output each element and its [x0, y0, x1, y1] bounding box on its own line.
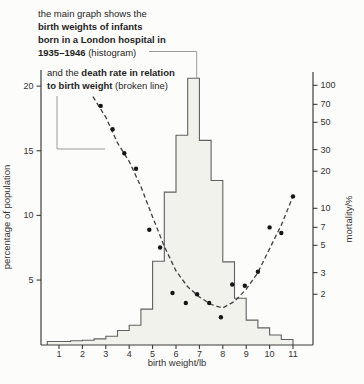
annotation-line-bold: birth weights of infants: [38, 21, 143, 32]
x-tick-label: 9: [244, 349, 249, 359]
right-tick-label: 30: [321, 145, 331, 155]
mortality-data-point: [279, 231, 283, 235]
annotation-line: the main graph shows the: [38, 8, 147, 19]
mortality-data-point: [158, 245, 162, 249]
mortality-data-point: [267, 225, 271, 229]
mortality-data-point: [195, 292, 199, 296]
annotation-line-bold: born in a London hospital in: [38, 34, 166, 45]
mortality-data-point: [230, 282, 234, 286]
annotation-years: 1935–1946: [38, 47, 86, 58]
mortality-data-point: [122, 151, 126, 155]
mortality-data-point: [243, 284, 247, 288]
mortality-data-point: [256, 270, 260, 274]
mortality-data-point: [147, 228, 151, 232]
right-tick-label: 10: [321, 203, 331, 213]
right-tick-label: 100: [321, 80, 336, 90]
histogram-outline: [47, 78, 293, 345]
annotation-line: and the: [47, 67, 81, 78]
left-tick-label: 5: [28, 275, 33, 285]
y-left-axis-title: percentage of population: [1, 165, 12, 270]
annotation-histogram-note: the main graph shows the birth weights o…: [38, 7, 223, 59]
x-tick-label: 11: [288, 349, 297, 359]
mortality-data-point: [110, 127, 114, 131]
right-tick-label: 3: [321, 268, 326, 278]
right-tick-label: 2: [321, 289, 326, 299]
annotation-line-bold: to birth weight: [47, 80, 112, 91]
right-tick-label: 70: [321, 99, 331, 109]
left-tick-label: 15: [23, 146, 33, 156]
mortality-data-point: [170, 291, 174, 295]
annotation-mortality-note: and the death rate in relation to birth …: [47, 66, 237, 92]
left-tick-label: 10: [23, 210, 33, 220]
mortality-data-point: [207, 301, 211, 305]
left-tick-label: 20: [23, 81, 33, 91]
right-tick-label: 7: [321, 222, 326, 232]
x-tick-label: 8: [220, 349, 225, 359]
right-tick-label: 5: [321, 240, 326, 250]
x-tick-label: 2: [80, 349, 85, 359]
annotation-line-bold: death rate in relation: [81, 67, 174, 78]
right-tick-label: 50: [321, 117, 331, 127]
x-tick-label: 4: [127, 349, 132, 359]
mortality-data-point: [219, 315, 223, 319]
mortality-data-point: [184, 301, 188, 305]
annotation-line: (histogram): [86, 47, 137, 58]
right-tick-label: 20: [321, 166, 331, 176]
annotation-line: (broken line): [112, 80, 167, 91]
x-axis-title: birth weight/lb: [148, 357, 207, 368]
x-tick-label: 1: [56, 349, 61, 359]
x-tick-label: 3: [103, 349, 108, 359]
y-right-axis-title: mortality/%: [343, 195, 354, 243]
x-tick-label: 10: [265, 349, 275, 359]
mortality-data-point: [99, 104, 103, 108]
mortality-data-point: [291, 194, 295, 198]
figure-birth-weight-mortality-chart: 5101520235710203050701001234567891011per…: [0, 0, 364, 384]
mortality-data-point: [134, 167, 138, 171]
